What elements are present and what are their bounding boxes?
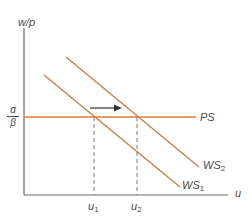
arrow-right-icon [114,105,122,112]
ws2-label: WS2 [203,160,225,173]
ws1-label: WS1 [182,180,204,193]
u2-tick-label: u2 [131,201,142,214]
frac-numerator: α [10,104,16,115]
u1-tick-label: u1 [88,201,99,214]
x-axis-label: u [235,188,241,199]
ws2-curve [66,57,199,167]
frac-denominator: β [10,117,16,128]
wage-setting-price-setting-diagram: w/p u α β PS WS2 WS1 u1 u2 [0,0,252,222]
ps-label: PS [200,112,215,123]
ws1-curve [44,75,180,187]
alpha-over-beta-label: α β [7,105,19,128]
y-axis-label: w/p [18,17,35,28]
